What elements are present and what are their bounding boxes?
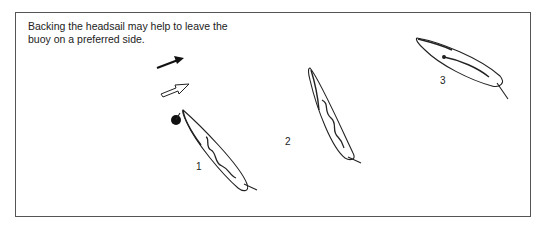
- boat-2-label: 2: [285, 136, 291, 147]
- boat-2: [309, 68, 362, 163]
- diagram-artwork: 1 2 3: [0, 0, 541, 232]
- boat-1-label: 1: [196, 161, 202, 172]
- wind-arrow-icon: [157, 56, 184, 68]
- current-arrow-icon: [161, 84, 189, 97]
- boat-1: [176, 110, 257, 191]
- boat-3: [416, 38, 508, 99]
- boat-3-label: 3: [440, 75, 446, 86]
